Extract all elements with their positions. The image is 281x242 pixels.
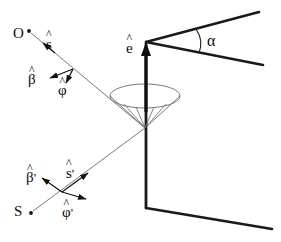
phi-hat-prime-accent: ^ [64,197,70,209]
observer-point-marker [27,29,31,33]
e-hat-accent: ^ [127,32,133,44]
beta-hat-prime-label: ^ β ' [26,170,36,185]
figure-canvas [0,0,281,242]
wedge-bottom-face [146,208,272,229]
wedge-lower-face [146,42,263,65]
source-point-marker [29,211,33,215]
beta-hat-prime-vector [42,178,62,192]
e-hat-vector [141,42,151,112]
s-hat-prime-accent: ^ [66,157,72,169]
beta-hat-prime-accent: ^ [27,162,33,174]
beta-hat-accent: ^ [29,64,35,76]
beta-hat-label: ^ β [28,72,36,87]
cone-side-right [145,96,180,128]
phi-hat-prime-mark: ' [71,205,73,220]
phi-hat-accent: ^ [60,75,66,87]
s-hat-prime-label: ^ s ' [66,166,74,181]
source-point-label: S [14,204,22,219]
s-hat-prime-mark: ' [72,166,74,181]
alpha-angle-label: α [207,33,215,49]
e-hat-arrowhead [141,42,151,56]
alpha-angle-arc [196,29,201,53]
scattering-geometry-figure: O ^ s ^ β ^ φ S ^ β ' ^ s ' [0,0,281,242]
cone-side-left [110,96,145,128]
ray-lines [31,33,145,211]
beta-hat-prime-mark: ' [34,170,36,185]
observer-point-label: O [13,26,24,41]
phi-hat-prime-label: ^ φ ' [62,205,73,220]
s-hat-accent: ^ [46,28,52,40]
source-ray [33,128,145,211]
e-hat-label: ^ e [126,41,133,56]
phi-hat-label: ^ φ [58,83,67,98]
cone-rule-2 [136,107,145,128]
s-hat-label: ^ s [46,37,52,52]
wedge-upper-face [146,12,259,42]
